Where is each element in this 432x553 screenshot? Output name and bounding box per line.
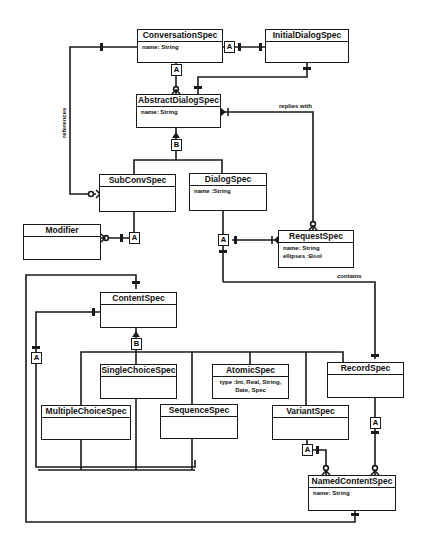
class-name: AtomicSpec: [213, 365, 288, 377]
class-attributes: [100, 187, 175, 191]
aggregation-tag: A: [302, 444, 313, 456]
class-subconv-spec[interactable]: SubConvSpec: [99, 174, 176, 212]
class-name: InitialDialogSpec: [266, 30, 348, 42]
class-content-spec[interactable]: ContentSpec: [100, 292, 177, 328]
class-name: SubConvSpec: [100, 175, 175, 187]
class-variant-spec[interactable]: VariantSpec: [272, 405, 349, 440]
aggregation-tag: A: [129, 232, 140, 244]
class-initial-dialog-spec[interactable]: InitialDialogSpec: [265, 29, 349, 63]
class-name: ContentSpec: [101, 293, 176, 305]
class-name: AbstractDialogSpec: [137, 95, 220, 107]
class-name: DialogSpec: [190, 174, 266, 186]
class-attributes: name: String: [309, 488, 395, 500]
aggregation-tag: A: [31, 352, 42, 364]
class-attributes: name :String: [190, 186, 266, 198]
class-name: MultipleChoiceSpec: [42, 406, 130, 418]
connector-lines: [0, 0, 432, 553]
class-name: ConversationSpec: [138, 30, 222, 42]
class-attributes: [101, 305, 176, 309]
class-attributes: [101, 377, 176, 381]
class-name: SingleChoiceSpec: [101, 365, 176, 377]
class-attributes: name: String ellipses :Bool: [279, 243, 353, 262]
class-name: RequestSpec: [279, 231, 353, 243]
class-modifier[interactable]: Modifier: [23, 224, 101, 260]
class-attributes: [42, 418, 130, 422]
class-request-spec[interactable]: RequestSpec name: String ellipses :Bool: [278, 230, 354, 268]
class-attributes: [273, 418, 348, 422]
inheritance-tag: B: [131, 338, 142, 350]
references-label: references: [61, 108, 67, 138]
class-dialog-spec[interactable]: DialogSpec name :String: [189, 173, 267, 211]
class-atomic-spec[interactable]: AtomicSpec type :Int, Real, String, Date…: [212, 364, 289, 399]
class-attributes: [24, 237, 100, 241]
class-attributes: name: String: [137, 107, 220, 119]
class-attributes: type :Int, Real, String, Date, Spec: [213, 377, 288, 396]
class-attributes: name: String: [138, 42, 222, 54]
class-name: VariantSpec: [273, 406, 348, 418]
aggregation-tag: A: [218, 234, 229, 246]
class-abstract-dialog-spec[interactable]: AbstractDialogSpec name: String: [136, 94, 221, 128]
replies-with-label: replies with: [279, 103, 312, 109]
class-attributes: [161, 417, 237, 421]
class-conversation-spec[interactable]: ConversationSpec name: String: [137, 29, 223, 63]
class-name: RecordSpec: [328, 363, 403, 375]
class-sequence-spec[interactable]: SequenceSpec: [160, 404, 238, 439]
class-single-choice-spec[interactable]: SingleChoiceSpec: [100, 364, 177, 399]
inheritance-tag: B: [171, 139, 182, 151]
class-name: SequenceSpec: [161, 405, 237, 417]
class-attributes: [328, 375, 403, 379]
class-multiple-choice-spec[interactable]: MultipleChoiceSpec: [41, 405, 131, 440]
aggregation-tag: A: [171, 64, 182, 76]
class-attributes: [266, 42, 348, 46]
aggregation-tag: A: [224, 41, 235, 53]
class-name: NamedContentSpec: [309, 476, 395, 488]
aggregation-tag: A: [370, 417, 381, 429]
class-record-spec[interactable]: RecordSpec: [327, 362, 404, 398]
class-named-content-spec[interactable]: NamedContentSpec name: String: [308, 475, 396, 511]
contains-label: contains: [337, 273, 362, 279]
class-name: Modifier: [24, 225, 100, 237]
